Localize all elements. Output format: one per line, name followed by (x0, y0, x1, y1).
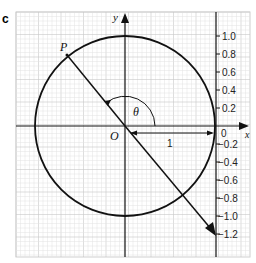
scale-label: −1.0 (218, 211, 238, 222)
angle-label: θ (133, 105, 139, 119)
scale-label: −1.2 (218, 229, 238, 240)
scale-label: 0.6 (222, 67, 236, 78)
scale-label: −0.8 (218, 193, 238, 204)
y-axis-label: y (112, 11, 118, 23)
scale-label: 1.0 (222, 31, 236, 42)
scale-label: −0.2 (218, 139, 238, 150)
radius-label: 1 (167, 138, 173, 149)
x-axis-label: x (244, 129, 250, 140)
scale-label: 0.8 (222, 49, 236, 60)
scale-label: −0.6 (218, 175, 238, 186)
point-label: P (59, 40, 68, 54)
unit-circle-diagram: y x O P θ 1 0 1.00.80.60.40.2−0.2−0.4−0.… (0, 0, 256, 263)
scale-zero-label: 0 (221, 128, 227, 139)
origin-label: O (110, 129, 119, 143)
scale-label: 0.2 (222, 103, 236, 114)
scale-label: −0.4 (218, 157, 238, 168)
scale-label: 0.4 (222, 85, 236, 96)
